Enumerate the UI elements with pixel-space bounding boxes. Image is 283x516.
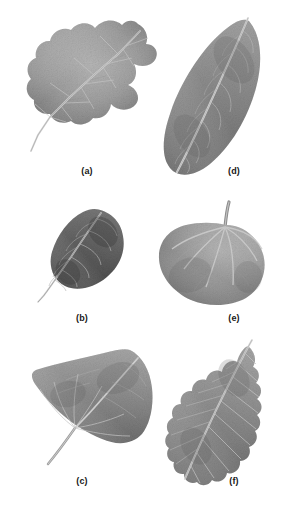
leaf-panel-a <box>22 14 162 162</box>
leaf-image-f <box>160 338 270 488</box>
leaf-image-e <box>150 197 270 309</box>
leaf-panel-c <box>26 344 158 472</box>
caption-a: (a) <box>72 166 102 176</box>
caption-d: (d) <box>219 166 249 176</box>
leaf-image-c <box>26 344 158 472</box>
leaf-panel-d <box>148 12 270 182</box>
leaf-panel-e <box>150 197 270 309</box>
leaf-image-d <box>148 12 270 182</box>
caption-f: (f) <box>219 476 249 486</box>
caption-c: (c) <box>67 476 97 486</box>
top-cropped-text <box>0 0 283 7</box>
caption-b: (b) <box>67 313 97 323</box>
leaf-image-a <box>22 14 162 162</box>
leaf-image-b <box>31 204 134 305</box>
leaf-figure: (a) <box>0 0 283 516</box>
leaf-panel-f <box>160 338 270 488</box>
caption-e: (e) <box>219 313 249 323</box>
leaf-panel-b <box>31 204 134 305</box>
